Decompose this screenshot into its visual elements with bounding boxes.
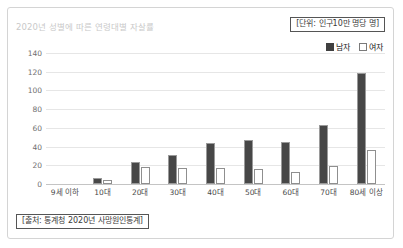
bar-group [234, 53, 272, 184]
chart-legend: 남자 여자 [326, 41, 383, 52]
x-tick-label: 10대 [84, 186, 122, 197]
legend-label-male: 남자 [336, 41, 350, 52]
bar-group [159, 53, 197, 184]
bar-male [281, 142, 290, 184]
y-axis: 020406080100120140 [16, 53, 42, 184]
bar-group [84, 53, 122, 184]
bar-series-container [46, 53, 385, 184]
x-axis: 9세 이하10대20대30대40대50대60대70대80세 이상 [46, 186, 385, 197]
y-tick-label: 80 [32, 105, 42, 114]
x-tick-label: 70대 [310, 186, 348, 197]
bar-male [131, 162, 140, 184]
page-title: 2020년 성별에 따른 연령대별 자살률 [16, 20, 155, 32]
screenshot-root: 2020년 성별에 따른 연령대별 자살률 [단위: 인구10만 명당 명] 남… [0, 0, 403, 248]
bar-group [197, 53, 235, 184]
bar-group [121, 53, 159, 184]
bar-group [46, 53, 84, 184]
bar-male [357, 73, 366, 184]
legend-swatch-female-icon [359, 43, 367, 51]
legend-swatch-male-icon [326, 43, 334, 51]
bar-female [291, 172, 300, 184]
bar-male [244, 140, 253, 184]
bar-male [319, 125, 328, 184]
x-tick-label: 50대 [234, 186, 272, 197]
bar-group [347, 53, 385, 184]
y-tick-label: 0 [37, 180, 42, 189]
bar-female [216, 168, 225, 184]
x-tick-label: 40대 [197, 186, 235, 197]
chart-plot: 020406080100120140 9세 이하10대20대30대40대50대6… [8, 53, 395, 203]
x-tick-label: 9세 이하 [46, 186, 84, 197]
y-tick-label: 20 [32, 161, 42, 170]
legend-item-female: 여자 [359, 41, 383, 52]
bar-female [367, 150, 376, 184]
bar-female [178, 168, 187, 184]
x-tick-label: 80세 이상 [347, 186, 385, 197]
source-note: [출처: 통계청 2020년 사망원인통계] [16, 214, 149, 229]
x-tick-label: 60대 [272, 186, 310, 197]
bar-female [329, 166, 338, 184]
bar-female [103, 180, 112, 184]
y-tick-label: 120 [28, 67, 42, 76]
bar-male [168, 155, 177, 184]
x-tick-label: 30대 [159, 186, 197, 197]
legend-label-female: 여자 [369, 41, 383, 52]
plot-area [46, 53, 385, 184]
x-tick-label: 20대 [121, 186, 159, 197]
bar-female [141, 167, 150, 184]
bar-group [310, 53, 348, 184]
chart-card: 2020년 성별에 따른 연령대별 자살률 [단위: 인구10만 명당 명] 남… [7, 7, 394, 239]
bar-group [272, 53, 310, 184]
bar-male [93, 178, 102, 184]
y-tick-label: 100 [28, 86, 42, 95]
legend-item-male: 남자 [326, 41, 350, 52]
y-tick-label: 40 [32, 142, 42, 151]
y-tick-label: 140 [28, 49, 42, 58]
axis-baseline [46, 184, 385, 185]
unit-note: [단위: 인구10만 명당 명] [290, 17, 385, 32]
bar-male [206, 143, 215, 184]
y-tick-label: 60 [32, 123, 42, 132]
bar-female [254, 169, 263, 184]
